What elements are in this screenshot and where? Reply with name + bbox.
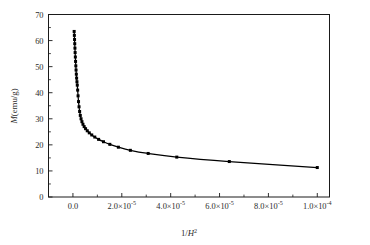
data-marker bbox=[75, 77, 78, 80]
data-marker bbox=[78, 110, 81, 113]
y-axis-title: M(emu/g) bbox=[9, 88, 19, 124]
data-marker bbox=[147, 152, 150, 155]
data-marker bbox=[117, 146, 120, 149]
data-marker bbox=[108, 143, 111, 146]
data-marker bbox=[80, 120, 83, 123]
data-marker bbox=[79, 114, 82, 117]
data-marker bbox=[74, 56, 77, 59]
data-marker bbox=[102, 140, 105, 143]
data-marker bbox=[75, 80, 78, 83]
y-tick-label-70: 70 bbox=[35, 11, 43, 20]
data-marker bbox=[77, 100, 80, 103]
y-tick-label-60: 60 bbox=[35, 37, 43, 46]
y-axis-title-text: M(emu/g) bbox=[9, 88, 19, 124]
data-marker bbox=[75, 69, 78, 72]
figure-container: 010203040506070 0.02.0×10-54.0×10-56.0×1… bbox=[0, 0, 370, 245]
data-marker bbox=[129, 149, 132, 152]
y-tick-label-50: 50 bbox=[35, 63, 43, 72]
data-marker bbox=[74, 51, 77, 54]
data-marker bbox=[73, 30, 76, 33]
data-marker bbox=[80, 117, 83, 120]
data-marker bbox=[316, 166, 319, 169]
data-marker bbox=[74, 60, 77, 63]
data-marker bbox=[93, 136, 96, 139]
data-marker bbox=[228, 160, 231, 163]
data-marker bbox=[76, 89, 79, 92]
data-marker bbox=[90, 133, 93, 136]
y-tick-label-30: 30 bbox=[35, 115, 43, 124]
data-marker bbox=[175, 156, 178, 159]
y-tick-label-0: 0 bbox=[39, 193, 43, 202]
y-tick-label-20: 20 bbox=[35, 141, 43, 150]
y-tick-label-40: 40 bbox=[35, 89, 43, 98]
data-marker bbox=[73, 34, 76, 37]
data-marker bbox=[97, 138, 100, 141]
data-marker bbox=[77, 94, 80, 97]
data-marker bbox=[74, 64, 77, 67]
chart-canvas: 010203040506070 0.02.0×10-54.0×10-56.0×1… bbox=[0, 0, 370, 245]
y-tick-label-10: 10 bbox=[35, 167, 43, 176]
data-marker bbox=[75, 73, 78, 76]
data-marker bbox=[78, 105, 81, 108]
data-marker bbox=[76, 84, 79, 87]
x-tick-label-0: 0.0 bbox=[68, 202, 78, 211]
data-marker bbox=[73, 47, 76, 50]
data-marker bbox=[73, 38, 76, 41]
data-marker bbox=[73, 42, 76, 45]
